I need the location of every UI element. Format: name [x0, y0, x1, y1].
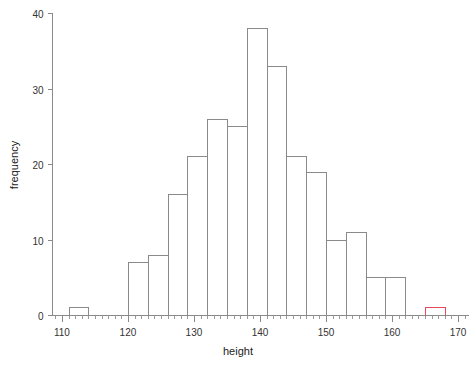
y-tick-label: 40	[32, 9, 44, 20]
x-tick-label: 140	[252, 327, 269, 338]
y-tick-label: 0	[38, 311, 44, 322]
x-tick-label: 130	[186, 327, 203, 338]
x-tick-label: 170	[450, 327, 467, 338]
chart-canvas: 110120130140150160170 010203040 height f…	[0, 0, 476, 368]
x-tick-label: 110	[54, 327, 70, 338]
y-axis-title: frequency	[8, 140, 20, 189]
chart-background	[0, 0, 476, 368]
y-tick-label: 10	[32, 236, 44, 247]
y-tick-label: 20	[32, 160, 44, 171]
x-tick-label: 150	[318, 327, 335, 338]
x-tick-label: 160	[384, 327, 401, 338]
x-tick-label: 120	[120, 327, 137, 338]
histogram-chart: 110120130140150160170 010203040 height f…	[0, 0, 476, 368]
x-axis-title: height	[223, 345, 253, 357]
y-tick-label: 30	[32, 85, 44, 96]
